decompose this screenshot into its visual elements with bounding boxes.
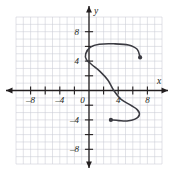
y-axis-down-arrow: [86, 162, 92, 169]
x-axis-left-arrow: [6, 88, 13, 94]
y-axis-label: y: [93, 6, 99, 16]
xtick-label-neg4: –4: [54, 95, 65, 105]
ytick-label-4: 4: [75, 56, 80, 66]
s-curve: [85, 44, 142, 122]
x-axis-right-arrow: [162, 88, 169, 94]
graph-figure: –8 –4 0 4 8 8 4 –4 –8 x y: [0, 0, 172, 172]
xtick-label-neg8: –8: [25, 95, 36, 105]
xtick-label-8: 8: [145, 95, 150, 105]
lower-left-endpoint-dot: [109, 118, 113, 122]
xtick-label-0: 0: [80, 95, 85, 105]
ytick-label-neg4: –4: [69, 115, 80, 125]
s-curve-path: [85, 44, 140, 121]
upper-right-endpoint-dot: [138, 55, 142, 59]
y-axis-up-arrow: [86, 6, 92, 13]
ytick-label-neg8: –8: [69, 144, 80, 154]
x-axis-label: x: [156, 76, 162, 86]
ytick-label-8: 8: [75, 27, 80, 37]
coordinate-plane: –8 –4 0 4 8 8 4 –4 –8 x y: [0, 0, 172, 172]
